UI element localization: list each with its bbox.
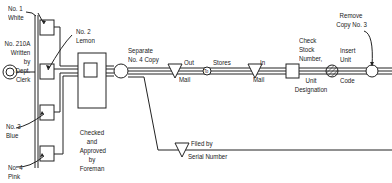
copy-4-color: Pink [8,172,23,181]
origin-label: No. 210A Written by Dept. Clerk [4,39,30,84]
remove-copy-operation-icon [366,65,378,77]
separate-line-1: Separate [128,46,159,55]
insert-unit-line-2: Unit [340,55,355,64]
separate-operation-icon [114,64,128,78]
copy-3-color: Blue [6,131,21,140]
in-mail-label: Mail [253,75,264,84]
origin-line-1: No. 210A [4,39,30,48]
copy-1-box-icon [40,20,54,35]
copy-1-label: No. 1 White [8,4,24,22]
out-label: Out [184,58,194,67]
filed-by-label: Filed by [191,139,213,148]
origin-line-2: Written [4,48,30,57]
insert-unit-label: Insert Unit [340,46,355,64]
remove-copy-line-2: Copy No. 3 [336,20,366,29]
insert-unit-operation-icon [326,65,338,77]
copy-2-color: Lemon [76,36,95,45]
foreman-label: Checked and Approved by Foreman [80,128,105,173]
copy-4-number: No. 4 [8,163,23,172]
check-stock-line-3: Number, [299,54,322,63]
check-stock-label: Check Stock Number, [299,36,322,63]
unit-designation-line-2: Designation [295,85,328,94]
origin-line-3: by [4,57,30,66]
remove-copy-line-1: Remove [336,11,366,20]
remove-copy-label: Remove Copy No. 3 [336,11,366,29]
inspection-line-5: Foreman [80,164,105,173]
code-label: Code [340,76,355,85]
copy-2-label: No. 2 Lemon [76,27,95,45]
copy-1-number: No. 1 [8,4,24,13]
check-stock-line-2: Stock [299,45,322,54]
copy-3-label: No. 3 Blue [6,122,21,140]
flow-process-diagram: No. 1 White No. 2 Lemon No. 3 Blue No. 4… [0,0,392,183]
to-label: To [204,67,208,76]
copy-4-label: No. 4 Pink [8,163,23,181]
inspection-line-3: Approved [80,146,105,155]
unit-designation-line-1: Unit [295,76,328,85]
serial-number-label: Serial Number [188,152,227,161]
origin-line-5: Clerk [4,75,30,84]
stores-label: Stores [213,58,231,67]
in-label: In [260,58,265,67]
copy-1-color: White [8,13,24,22]
separate-label: Separate No. 4 Copy [128,46,159,64]
inspection-line-1: Checked [80,128,105,137]
copy-3-number: No. 3 [6,122,21,131]
copy-2-number: No. 2 [76,27,95,36]
inspection-line-2: and [80,137,105,146]
inspection-line-4: by [80,155,105,164]
foreman-check-box-icon [78,53,106,108]
insert-unit-line-1: Insert [340,46,355,55]
unit-designation-label: Unit Designation [295,76,328,94]
out-mail-label: Mail [179,75,190,84]
origin-line-4: Dept. [4,66,30,75]
check-stock-line-1: Check [299,36,322,45]
separate-line-2: No. 4 Copy [128,55,159,64]
